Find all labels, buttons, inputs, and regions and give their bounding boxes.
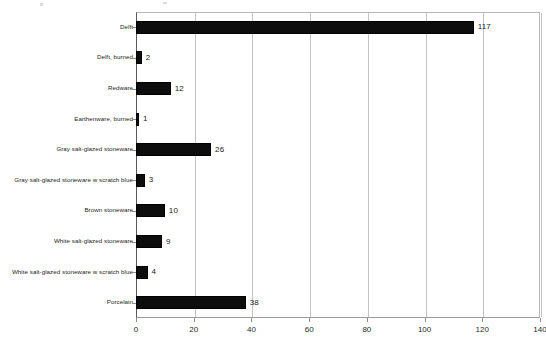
bar-value-label: 38 bbox=[250, 298, 259, 307]
bar bbox=[136, 174, 145, 187]
category-label: Delft bbox=[0, 24, 133, 30]
bar bbox=[136, 21, 474, 34]
y-axis-tick bbox=[132, 211, 136, 212]
y-axis-tick bbox=[132, 242, 136, 243]
y-axis-tick bbox=[132, 89, 136, 90]
bar bbox=[136, 266, 148, 279]
category-label: Gray salt-glazed stoneware w scratch blu… bbox=[0, 177, 133, 183]
bar-value-label: 12 bbox=[175, 84, 184, 93]
x-axis-tick-label: 0 bbox=[134, 325, 138, 334]
x-axis-tick-label: 80 bbox=[362, 325, 371, 334]
bar bbox=[136, 143, 211, 156]
bar-value-label: 9 bbox=[166, 237, 171, 246]
bar-value-label: 10 bbox=[169, 206, 178, 215]
bar bbox=[136, 235, 162, 248]
x-axis-tick-label: 40 bbox=[247, 325, 256, 334]
y-axis-tick bbox=[132, 58, 136, 59]
y-axis-tick bbox=[132, 303, 136, 304]
x-axis-tick-label: 100 bbox=[418, 325, 431, 334]
y-axis-tick bbox=[132, 180, 136, 181]
x-axis-tick-label: 140 bbox=[533, 325, 546, 334]
x-axis-tick-label: 20 bbox=[189, 325, 198, 334]
bar-value-label: 4 bbox=[152, 267, 157, 276]
category-label: White salt-glazed stoneware bbox=[0, 238, 133, 244]
category-label: Brown stoneware bbox=[0, 207, 133, 213]
x-axis-tick-label: 60 bbox=[305, 325, 314, 334]
chart-overlay: 117Delft2Delft, burned12Redware1Earthenw… bbox=[0, 0, 546, 350]
bar-value-label: 3 bbox=[149, 175, 154, 184]
y-axis-tick bbox=[132, 150, 136, 151]
category-label: Earthenware, burned bbox=[0, 116, 133, 122]
bar-value-label: 1 bbox=[143, 114, 148, 123]
x-axis-tick bbox=[367, 318, 368, 322]
x-axis-tick bbox=[482, 318, 483, 322]
bar bbox=[136, 113, 139, 126]
category-label: Gray salt-glazed stoneware bbox=[0, 146, 133, 152]
x-axis-tick bbox=[309, 318, 310, 322]
bar bbox=[136, 296, 246, 309]
x-axis-tick bbox=[194, 318, 195, 322]
x-axis-tick bbox=[540, 318, 541, 322]
x-axis-tick bbox=[251, 318, 252, 322]
y-axis-tick bbox=[132, 119, 136, 120]
bar bbox=[136, 82, 171, 95]
category-label: Porcelain bbox=[0, 299, 133, 305]
bar bbox=[136, 51, 142, 64]
category-label: Delft, burned bbox=[0, 54, 133, 60]
y-axis-tick bbox=[132, 272, 136, 273]
bar bbox=[136, 204, 165, 217]
bar-chart-figure: 117Delft2Delft, burned12Redware1Earthenw… bbox=[0, 0, 546, 350]
bar-value-label: 2 bbox=[146, 53, 151, 62]
x-axis-tick bbox=[136, 318, 137, 322]
x-axis-tick-label: 120 bbox=[476, 325, 489, 334]
category-label: White salt-glazed stoneware w scratch bl… bbox=[0, 269, 133, 275]
x-axis-tick bbox=[425, 318, 426, 322]
bar-value-label: 117 bbox=[478, 22, 491, 31]
y-axis-tick bbox=[132, 27, 136, 28]
bar-value-label: 26 bbox=[215, 145, 224, 154]
category-label: Redware bbox=[0, 85, 133, 91]
